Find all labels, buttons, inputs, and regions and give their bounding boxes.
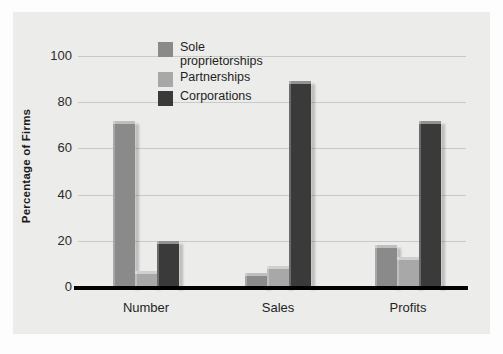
category-label-sales: Sales bbox=[208, 300, 348, 315]
bar-left-highlight bbox=[157, 241, 159, 287]
x-axis-baseline bbox=[74, 286, 468, 290]
bar-left-highlight bbox=[397, 257, 399, 287]
legend-item-sole: Sole proprietorships bbox=[158, 41, 263, 68]
y-tick-label: 0 bbox=[28, 280, 72, 293]
bar-top-highlight bbox=[135, 271, 157, 274]
bar-sales-sole-proprietorships bbox=[245, 273, 267, 287]
bar-body bbox=[267, 266, 289, 287]
bar-left-highlight bbox=[113, 121, 115, 287]
bar-number-corporations bbox=[157, 241, 179, 287]
bar-number-sole-proprietorships bbox=[113, 121, 135, 287]
bar-left-highlight bbox=[419, 121, 421, 287]
bar-body bbox=[113, 121, 135, 287]
bar-body bbox=[289, 81, 311, 287]
y-tick-label: 100 bbox=[28, 49, 72, 62]
bar-shadow bbox=[179, 244, 183, 290]
bar-top-highlight bbox=[375, 245, 397, 248]
bar-shadow bbox=[135, 124, 139, 290]
bar-top-highlight bbox=[289, 81, 311, 84]
legend-swatch bbox=[158, 42, 173, 57]
legend-swatch bbox=[158, 91, 173, 106]
bar-profits-corporations bbox=[419, 121, 441, 287]
bar-profits-partnerships bbox=[397, 257, 419, 287]
y-tick-label: 20 bbox=[28, 234, 72, 247]
bar-shadow bbox=[441, 124, 445, 290]
bar-top-highlight bbox=[113, 121, 135, 124]
chart-legend: Sole proprietorshipsPartnershipsCorporat… bbox=[158, 41, 263, 109]
bar-left-highlight bbox=[375, 245, 377, 287]
y-tick-label: 40 bbox=[28, 188, 72, 201]
bar-number-partnerships bbox=[135, 271, 157, 287]
bar-top-highlight bbox=[157, 241, 179, 244]
bar-body bbox=[397, 257, 419, 287]
y-tick-100: 100 bbox=[22, 49, 72, 62]
legend-item-partnerships: Partnerships bbox=[158, 71, 263, 87]
category-label-profits: Profits bbox=[338, 300, 478, 315]
legend-label: Sole proprietorships bbox=[180, 41, 263, 68]
bar-body bbox=[245, 273, 267, 287]
bar-body bbox=[135, 271, 157, 287]
gridline-100 bbox=[78, 56, 466, 57]
bar-sales-partnerships bbox=[267, 266, 289, 287]
bar-top-highlight bbox=[267, 266, 289, 269]
y-tick-label: 80 bbox=[28, 95, 72, 108]
bar-sales-corporations bbox=[289, 81, 311, 287]
bar-profits-sole-proprietorships bbox=[375, 245, 397, 287]
chart-figure: 100806040200 Percentage of Firms NumberS… bbox=[0, 0, 503, 354]
bar-top-highlight bbox=[397, 257, 419, 260]
bar-left-highlight bbox=[245, 273, 247, 287]
y-tick-label: 60 bbox=[28, 141, 72, 154]
bar-top-highlight bbox=[419, 121, 441, 124]
bar-shadow bbox=[311, 84, 315, 290]
bar-top-highlight bbox=[245, 273, 267, 276]
bar-body bbox=[419, 121, 441, 287]
bar-left-highlight bbox=[135, 271, 137, 287]
legend-swatch bbox=[158, 72, 173, 87]
y-tick-0: 0 bbox=[22, 280, 72, 293]
legend-label: Corporations bbox=[180, 90, 252, 104]
y-axis-title: Percentage of Firms bbox=[20, 96, 32, 236]
bar-body bbox=[157, 241, 179, 287]
gridline-80 bbox=[78, 102, 466, 103]
legend-label: Partnerships bbox=[180, 71, 250, 85]
legend-item-corporations: Corporations bbox=[158, 90, 263, 106]
plot-area: 100806040200 Percentage of Firms NumberS… bbox=[0, 0, 503, 354]
bar-left-highlight bbox=[289, 81, 291, 287]
bar-body bbox=[375, 245, 397, 287]
category-label-number: Number bbox=[76, 300, 216, 315]
bar-left-highlight bbox=[267, 266, 269, 287]
